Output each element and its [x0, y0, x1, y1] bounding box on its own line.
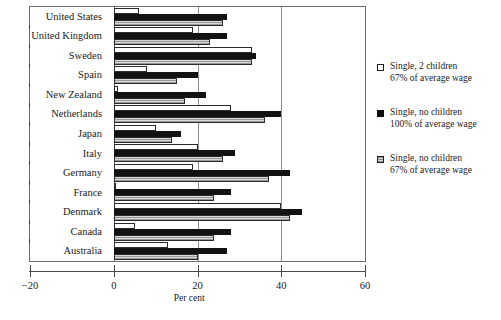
- legend-label-line1: Single, 2 children: [390, 61, 457, 71]
- legend-swatch-gray-icon: [377, 156, 384, 163]
- bar-united-kingdom-series-3: [114, 39, 210, 45]
- x-tick-20: [198, 265, 199, 277]
- bar-netherlands-series-3: [114, 117, 265, 123]
- bar-denmark-series-3: [114, 215, 290, 221]
- bar-spain-series-3: [114, 78, 177, 84]
- category-tick: [29, 64, 30, 68]
- x-axis-title: Per cent: [129, 293, 249, 303]
- legend-swatch-white-icon: [377, 64, 384, 71]
- category-tick: [29, 239, 30, 243]
- x-tick-label-40: 40: [261, 280, 301, 291]
- bar-new-zealand-series-3: [114, 98, 185, 104]
- x-tick-label-0: 0: [94, 280, 134, 291]
- x-tick-label--20: −20: [10, 280, 50, 291]
- legend-label-3: Single, no children67% of average wage: [390, 153, 472, 176]
- bar-germany-series-3: [114, 176, 269, 182]
- legend-label-line2: 67% of average wage: [390, 165, 472, 177]
- legend-label-1: Single, 2 children67% of average wage: [390, 61, 472, 84]
- bar-france-series-3: [114, 195, 215, 201]
- x-tick--20: [30, 265, 31, 277]
- bar-italy-series-3: [114, 156, 223, 162]
- category-tick: [29, 122, 30, 126]
- bar-united-states-series-3: [114, 20, 223, 26]
- x-tick-0: [114, 265, 115, 277]
- category-tick: [29, 181, 30, 185]
- category-tick: [29, 44, 30, 48]
- legend-swatch-black-icon: [377, 110, 384, 117]
- legend-label-2: Single, no children100% of average wage: [390, 107, 477, 130]
- bar-australia-series-3: [114, 254, 198, 260]
- grid-line-40: [281, 7, 282, 261]
- x-tick-60: [365, 265, 366, 277]
- bar-sweden-series-3: [114, 59, 252, 65]
- x-tick-40: [281, 265, 282, 277]
- category-tick: [29, 220, 30, 224]
- bar-canada-series-3: [114, 235, 215, 241]
- chart-root: United StatesUnited KingdomSwedenSpainNe…: [0, 0, 501, 320]
- category-tick: [29, 161, 30, 165]
- category-tick: [29, 83, 30, 87]
- bars-plot-area: [30, 7, 365, 261]
- category-tick: [29, 200, 30, 204]
- category-tick: [29, 103, 30, 107]
- legend-label-line2: 67% of average wage: [390, 73, 472, 85]
- legend-label-line1: Single, no children: [390, 107, 462, 117]
- legend-label-line1: Single, no children: [390, 153, 462, 163]
- category-tick: [29, 142, 30, 146]
- x-tick-label-60: 60: [345, 280, 385, 291]
- legend-label-line2: 100% of average wage: [390, 119, 477, 131]
- category-tick: [29, 25, 30, 29]
- x-tick-label-20: 20: [178, 280, 218, 291]
- bar-japan-series-3: [114, 137, 173, 143]
